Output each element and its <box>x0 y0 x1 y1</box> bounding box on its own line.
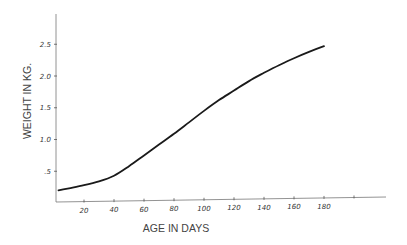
y-axis-ticks: .51.01.52.02.5 <box>40 41 57 176</box>
x-tick-label: 20 <box>80 207 89 215</box>
x-tick-label: 120 <box>227 204 241 212</box>
x-tick-label: 160 <box>287 203 301 211</box>
y-tick-label: 2.5 <box>40 41 52 49</box>
axes <box>56 14 386 202</box>
x-tick-label: 100 <box>197 205 211 213</box>
weight-curve <box>59 46 325 190</box>
y-tick-label: 1.5 <box>40 104 52 112</box>
x-tick-label: 80 <box>170 205 179 213</box>
y-tick-label: .5 <box>44 168 51 176</box>
x-axis-title: AGE IN DAYS <box>143 222 209 234</box>
y-tick-label: 2.0 <box>40 73 52 81</box>
y-axis-title: WEIGHT IN KG. <box>21 63 33 139</box>
x-tick-label: 40 <box>110 206 119 214</box>
x-tick-label: 140 <box>257 204 271 212</box>
x-axis-line <box>56 197 386 202</box>
y-tick-label: 1.0 <box>40 136 52 144</box>
x-tick-label: 180 <box>317 203 331 211</box>
x-tick-label: 60 <box>140 206 149 214</box>
growth-chart: 20406080100120140160180 .51.01.52.02.5 W… <box>0 0 407 245</box>
